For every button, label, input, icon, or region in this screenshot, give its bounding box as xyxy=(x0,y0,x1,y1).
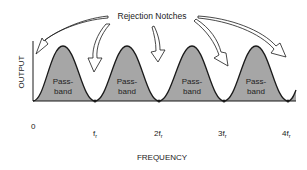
rejection-notches-label: Rejection Notches xyxy=(118,11,187,21)
passband-label: band xyxy=(118,87,136,96)
tick-label: 2fr xyxy=(154,129,163,139)
passband-label: Pass- xyxy=(53,77,74,86)
tick-label: fr xyxy=(93,129,97,139)
comb-filter-diagram: Rejection Notches Pass- band Pass- band … xyxy=(0,0,307,170)
passband-label: band xyxy=(183,87,201,96)
tick-label: 3fr xyxy=(218,129,227,139)
arrow-icon xyxy=(88,24,110,72)
y-axis-label: OUTPUT xyxy=(17,55,26,88)
passband-label: band xyxy=(247,87,265,96)
passband-label: band xyxy=(54,87,72,96)
x-axis-label: FREQUENCY xyxy=(137,153,188,162)
passband-label: Pass- xyxy=(246,77,267,86)
arrow-icon xyxy=(151,26,165,62)
passband-label: Pass- xyxy=(182,77,203,86)
x-tick-labels: 0 fr 2fr 3fr 4fr xyxy=(31,122,291,139)
passband-label: Pass- xyxy=(117,77,138,86)
tick-label: 4fr xyxy=(282,129,291,139)
tick-label: 0 xyxy=(31,122,36,131)
